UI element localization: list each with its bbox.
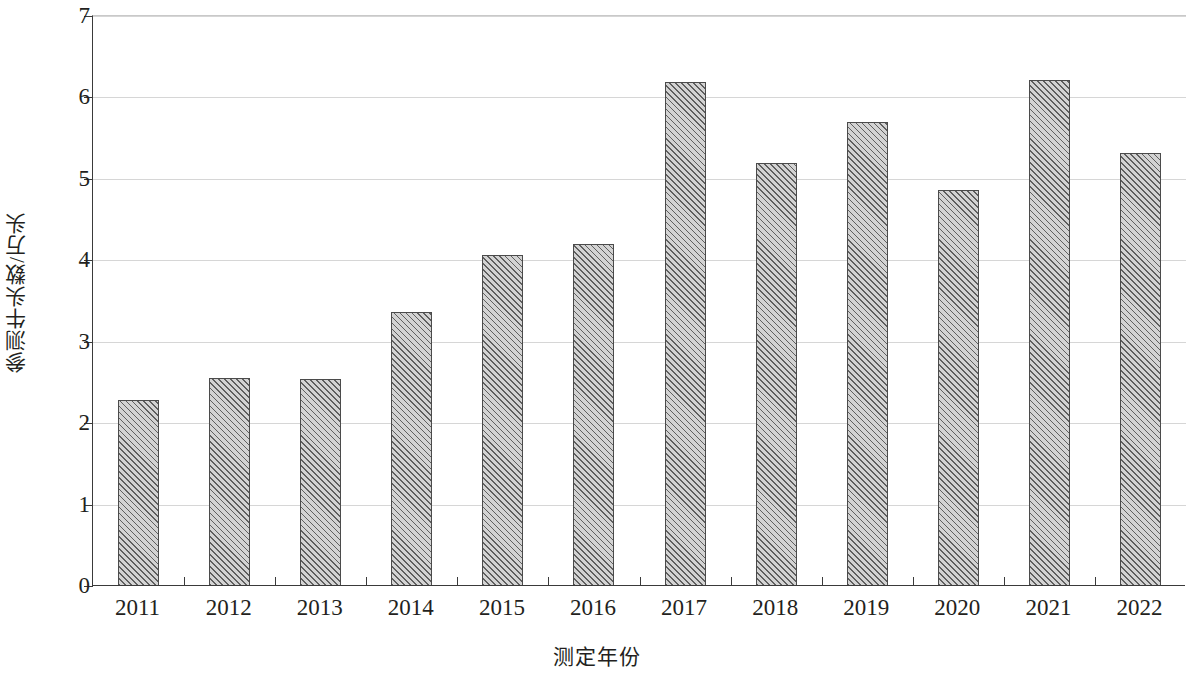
y-axis-tick-label: 5 bbox=[50, 166, 90, 189]
y-axis-tick-label: 3 bbox=[50, 329, 90, 352]
bar-2019 bbox=[847, 122, 888, 586]
y-axis-tick-label: 4 bbox=[50, 248, 90, 271]
gridline bbox=[93, 505, 1186, 506]
gridline bbox=[93, 423, 1186, 424]
gridline bbox=[93, 260, 1186, 261]
bar-2017 bbox=[665, 82, 706, 586]
gridline bbox=[93, 179, 1186, 180]
y-axis-title: 参测牛头数/万头 bbox=[0, 0, 34, 585]
y-axis-tick-label: 7 bbox=[50, 4, 90, 27]
y-axis-tick-label: 6 bbox=[50, 85, 90, 108]
y-axis-tick-label: 2 bbox=[50, 411, 90, 434]
plot-area bbox=[92, 15, 1186, 586]
gridline bbox=[93, 97, 1186, 98]
bar-2012 bbox=[209, 378, 250, 586]
bar-2011 bbox=[118, 400, 159, 586]
bar-2014 bbox=[391, 312, 432, 586]
y-axis-tick-label: 1 bbox=[50, 492, 90, 515]
bar-2013 bbox=[300, 379, 341, 586]
bar-2016 bbox=[573, 244, 614, 586]
bar-2018 bbox=[756, 163, 797, 586]
y-axis-tick-label: 0 bbox=[50, 574, 90, 597]
bar-2020 bbox=[938, 190, 979, 586]
bar-2021 bbox=[1029, 80, 1070, 586]
bar-2022 bbox=[1120, 153, 1161, 586]
bar-2015 bbox=[482, 255, 523, 586]
x-axis-line bbox=[92, 585, 1185, 586]
y-axis-title-label: 参测牛头数/万头 bbox=[2, 212, 32, 373]
x-axis-title: 测定年份 bbox=[0, 640, 1193, 670]
x-axis-tick-label: 2022 bbox=[1079, 596, 1193, 619]
gridline bbox=[93, 16, 1186, 17]
gridline bbox=[93, 342, 1186, 343]
bar-chart: 参测牛头数/万头 01234567 2011201220132014201520… bbox=[0, 0, 1193, 673]
